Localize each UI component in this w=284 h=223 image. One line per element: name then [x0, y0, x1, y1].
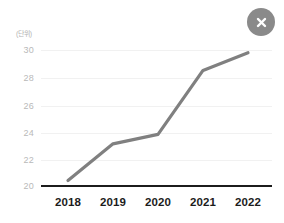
x-tick-label-2018: 2018: [55, 196, 81, 208]
y-tick-label-28: 28: [12, 73, 34, 83]
y-tick-label-24: 24: [12, 128, 34, 138]
chart-card: (단위) 30 28 26 24 22 20 2018 2019 2020 20…: [0, 0, 284, 223]
plot-area: 30 28 26 24 22 20 2018 2019 2020 2021 20…: [0, 0, 284, 223]
x-tick-label-2022: 2022: [235, 196, 261, 208]
line-series: [0, 0, 284, 223]
y-tick-label-20: 20: [12, 181, 34, 191]
y-tick-label-26: 26: [12, 101, 34, 111]
gridline-22: [41, 160, 272, 161]
y-tick-label-30: 30: [12, 45, 34, 55]
gridline-24: [41, 133, 272, 134]
y-tick-label-22: 22: [12, 155, 34, 165]
gridline-26: [41, 106, 272, 107]
x-tick-label-2019: 2019: [100, 196, 126, 208]
x-tick-label-2020: 2020: [145, 196, 171, 208]
x-axis-line: [41, 185, 272, 187]
x-tick-label-2021: 2021: [190, 196, 216, 208]
gridline-28: [41, 78, 272, 79]
gridline-30: [41, 50, 272, 51]
